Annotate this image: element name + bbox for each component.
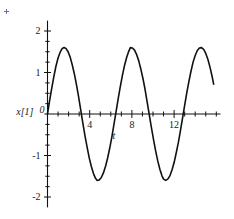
y-tick-label: -2 <box>32 191 40 202</box>
x-tick-label: 4 <box>87 119 92 130</box>
x-tick-label: 12 <box>169 119 179 130</box>
chart-figure: 21-1-2 4812 0 x[1] t <box>0 0 234 219</box>
y-tick-label: 2 <box>36 25 41 36</box>
x-axis: 4812 <box>44 110 220 130</box>
y-tick-label: 1 <box>36 67 41 78</box>
origin-label: 0 <box>40 104 45 115</box>
x-axis-tick-labels: 4812 <box>87 119 179 130</box>
x-axis-label: t <box>113 130 116 141</box>
x-tick-label: 8 <box>129 119 134 130</box>
y-tick-label: -1 <box>32 150 40 161</box>
y-axis-label: x[1] <box>15 106 33 117</box>
plot-canvas: 21-1-2 4812 0 x[1] t <box>0 0 234 219</box>
